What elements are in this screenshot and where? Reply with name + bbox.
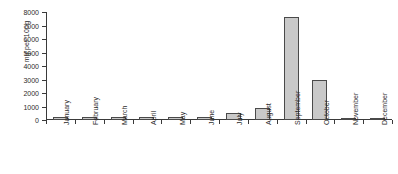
x-tick-label: August <box>265 103 273 125</box>
y-tick: 4000 <box>42 66 46 67</box>
x-tick-label: May <box>179 112 187 125</box>
x-tick-label: January <box>63 100 71 125</box>
x-tick <box>306 120 307 124</box>
x-tick-label: July <box>236 113 244 125</box>
bar-chart: mg per 100g 0100020003000400050006000700… <box>0 0 398 174</box>
x-tick <box>392 120 393 124</box>
x-tick-label: March <box>121 106 129 125</box>
plot-area: 010002000300040005000600070008000 Januar… <box>46 12 392 120</box>
x-tick-label: December <box>381 93 389 125</box>
x-tick-label: November <box>352 93 360 125</box>
y-tick: 2000 <box>42 93 46 94</box>
x-tick <box>46 120 47 124</box>
y-tick-label: 0 <box>35 116 39 125</box>
y-tick: 8000 <box>42 12 46 13</box>
x-tick <box>363 120 364 124</box>
x-tick-label: June <box>208 110 216 125</box>
y-tick-label: 7000 <box>23 22 39 31</box>
x-tick <box>277 120 278 124</box>
y-tick-label: 6000 <box>23 35 39 44</box>
y-tick: 5000 <box>42 53 46 54</box>
y-tick: 7000 <box>42 26 46 27</box>
x-tick-label: October <box>323 100 331 125</box>
y-tick-label: 2000 <box>23 89 39 98</box>
x-tick-label: September <box>294 91 302 125</box>
y-tick-label: 3000 <box>23 76 39 85</box>
x-tick-label: April <box>150 111 158 125</box>
x-tick-label: February <box>92 97 100 125</box>
x-tick <box>219 120 220 124</box>
y-tick: 3000 <box>42 80 46 81</box>
y-tick-label: 1000 <box>23 103 39 112</box>
y-tick-label: 4000 <box>23 62 39 71</box>
y-tick: 1000 <box>42 107 46 108</box>
x-tick <box>104 120 105 124</box>
x-tick <box>248 120 249 124</box>
y-tick: 6000 <box>42 39 46 40</box>
x-tick <box>334 120 335 124</box>
y-tick-label: 5000 <box>23 49 39 58</box>
x-tick <box>75 120 76 124</box>
x-tick <box>133 120 134 124</box>
x-tick <box>190 120 191 124</box>
y-tick-label: 8000 <box>23 8 39 17</box>
x-tick <box>161 120 162 124</box>
